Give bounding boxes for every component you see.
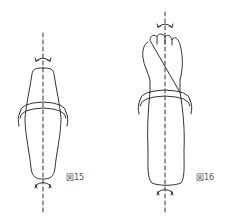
figure-16 [138, 12, 192, 212]
fist-outline [143, 34, 183, 92]
diagram-canvas [0, 0, 231, 223]
knuckle-lines [157, 37, 172, 45]
figure-16-label: 図16 [196, 173, 214, 183]
figure-15 [18, 33, 68, 212]
forearm-outline [148, 92, 185, 185]
figure-15-label: 図15 [66, 173, 84, 183]
